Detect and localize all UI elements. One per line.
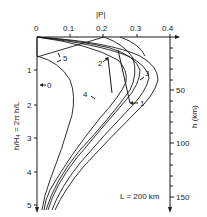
label-2: 2 xyxy=(98,57,109,68)
pointer-1 xyxy=(118,50,130,103)
svg-text:1: 1 xyxy=(140,99,145,108)
svg-text:5: 5 xyxy=(63,54,68,63)
svg-text:2: 2 xyxy=(98,59,103,68)
x-tick-4: 0.4 xyxy=(162,24,174,33)
y-tick-1: 1 xyxy=(27,66,32,75)
x-tick-3: 0.3 xyxy=(130,24,142,33)
right-tick-100: 100 xyxy=(176,139,190,148)
right-tick-50: 50 xyxy=(176,86,185,95)
label-5: 5 xyxy=(57,53,68,63)
right-tick-150: 150 xyxy=(176,193,190,202)
left-axis-title: h/H₄ = 2π h/L xyxy=(12,101,21,150)
svg-text:4: 4 xyxy=(83,90,88,99)
x-tick-2: 0.2 xyxy=(96,24,108,33)
y-tick-3: 3 xyxy=(27,134,32,143)
x-tick-0: 0 xyxy=(34,24,39,33)
curve-2 xyxy=(37,37,126,210)
y-tick-5: 5 xyxy=(27,201,32,210)
label-4: 4 xyxy=(83,90,95,99)
svg-text:3: 3 xyxy=(145,69,150,78)
y-tick-2: 2 xyxy=(27,101,32,110)
x-axis-title: |P| xyxy=(96,10,106,19)
y-tick-4: 4 xyxy=(27,168,32,177)
chart: |P| 0 0.1 0.2 0.3 0.4 1 2 3 4 5 h/H₄ = 2… xyxy=(0,0,207,217)
left-axis xyxy=(34,37,39,213)
pointer-2 xyxy=(108,58,112,93)
right-axis xyxy=(168,37,174,213)
curve-0 xyxy=(37,37,74,210)
label-0: 0 xyxy=(40,81,52,90)
right-axis-title: h (km) xyxy=(190,105,199,128)
annotation-L: L = 200 km xyxy=(120,192,160,201)
x-tick-1: 0.1 xyxy=(63,24,75,33)
svg-text:0: 0 xyxy=(47,81,52,90)
